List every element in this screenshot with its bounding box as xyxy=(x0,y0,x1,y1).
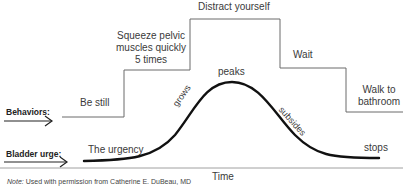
behavior-distract-yourself: Distract yourself xyxy=(198,1,270,13)
behavior-be-still: Be still xyxy=(80,97,109,109)
behaviors-row-label: Behaviors: xyxy=(6,106,50,118)
behavior-squeeze-line-2: muscles quickly xyxy=(111,42,191,54)
curve-label-stops: stops xyxy=(364,142,388,154)
behavior-squeeze-line-1: Squeeze pelvic xyxy=(111,30,191,42)
behavior-walk-to-bathroom: Walk to bathroom xyxy=(355,84,403,108)
curve-label-the-urgency: The urgency xyxy=(88,144,144,156)
behavior-walk-line-2: bathroom xyxy=(355,96,403,108)
attribution-note: Note: Used with permission from Catherin… xyxy=(7,176,191,186)
note-prefix: Note: xyxy=(7,178,24,185)
time-axis-label: Time xyxy=(212,171,234,183)
bladder-urge-row-label: Bladder urge: xyxy=(6,148,61,160)
curve-label-peaks: peaks xyxy=(218,66,245,78)
behavior-squeeze-line-3: 5 times xyxy=(111,54,191,66)
note-text: Used with permission from Catherine E. D… xyxy=(24,178,191,185)
behavior-squeeze-pelvic: Squeeze pelvic muscles quickly 5 times xyxy=(111,30,191,66)
behavior-walk-line-1: Walk to xyxy=(355,84,403,96)
behavior-wait: Wait xyxy=(293,49,313,61)
